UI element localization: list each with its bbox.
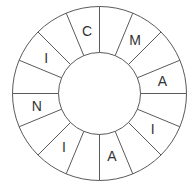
segment-letter: I (44, 50, 48, 66)
segment-divider (38, 32, 71, 65)
segment-divider (128, 122, 161, 155)
segment-letter: C (82, 23, 92, 39)
letter-wheel: MAIAINIC (0, 0, 194, 193)
segment-divider (66, 131, 84, 173)
inner-ring (59, 53, 141, 135)
segment-divider (115, 131, 133, 173)
segment-letter: N (32, 98, 42, 114)
segment-divider (19, 60, 61, 78)
segment-letter: I (151, 121, 155, 137)
segment-divider (137, 109, 179, 127)
segment-letter: I (62, 139, 66, 155)
segment-letter: M (129, 32, 141, 48)
segment-dividers (13, 7, 187, 181)
segment-letter: A (158, 73, 168, 89)
segment-letter: A (107, 148, 117, 164)
